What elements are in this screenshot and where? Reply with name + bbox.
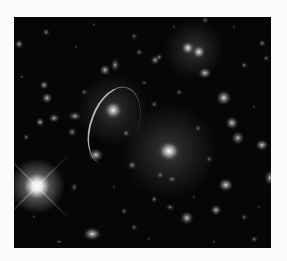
galaxy — [172, 25, 176, 29]
galaxy — [241, 62, 248, 69]
galaxy — [192, 45, 205, 58]
galaxy — [43, 29, 50, 36]
galaxy — [131, 224, 138, 231]
galaxy — [158, 141, 180, 161]
galaxy — [49, 114, 60, 123]
galaxy — [263, 55, 270, 62]
galaxy — [265, 170, 272, 185]
galaxy — [141, 81, 148, 85]
galaxy — [259, 40, 266, 47]
galaxy — [100, 65, 111, 76]
galaxy-cluster-photo — [14, 17, 271, 248]
galaxy — [157, 172, 164, 179]
galaxy — [151, 196, 158, 203]
galaxy — [42, 93, 53, 104]
galaxy — [111, 58, 120, 71]
galaxy — [218, 178, 233, 191]
galaxy — [104, 101, 122, 119]
galaxy — [131, 33, 138, 40]
galaxy — [216, 90, 231, 105]
galaxy — [195, 125, 202, 132]
galaxy — [36, 118, 45, 127]
galaxy — [156, 54, 163, 61]
galaxy — [180, 211, 193, 224]
galaxy — [121, 208, 128, 215]
galaxy — [251, 236, 258, 243]
galaxy — [147, 237, 151, 241]
galaxy — [211, 205, 222, 216]
galaxy — [68, 112, 81, 121]
galaxy — [168, 176, 177, 183]
galaxy — [206, 156, 213, 163]
galaxy — [198, 68, 211, 79]
galaxy — [192, 195, 196, 199]
galaxy — [74, 45, 78, 49]
galaxy — [166, 204, 175, 211]
galaxy — [123, 130, 130, 137]
galaxy — [232, 25, 236, 29]
galaxy — [136, 49, 143, 56]
galaxy — [32, 215, 36, 219]
galaxy — [20, 75, 24, 79]
galaxy — [92, 23, 96, 27]
galaxy — [241, 214, 248, 221]
galaxy — [81, 89, 88, 96]
galaxy — [71, 183, 78, 192]
galaxy — [15, 40, 24, 49]
galaxy — [83, 227, 101, 240]
galaxy — [112, 185, 116, 189]
galaxy — [255, 140, 268, 151]
galaxy — [257, 205, 261, 209]
galaxy — [212, 240, 216, 244]
galaxy — [23, 134, 30, 141]
galaxy — [68, 128, 77, 137]
galaxy — [231, 131, 244, 144]
galaxy — [176, 89, 183, 96]
galaxy — [252, 105, 256, 109]
galaxy — [56, 240, 63, 244]
galaxy — [225, 116, 238, 129]
galaxy — [128, 161, 137, 170]
galaxy — [151, 101, 158, 108]
galaxy — [40, 81, 49, 90]
galaxy — [202, 17, 209, 23]
